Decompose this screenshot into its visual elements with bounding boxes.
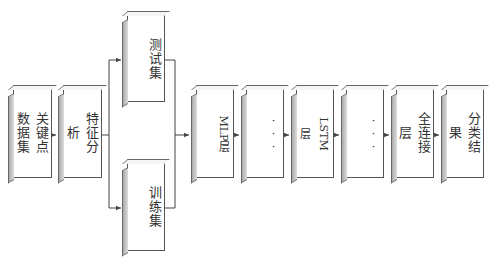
node-label: 特征分析	[64, 112, 101, 156]
node-label: 分类结果	[447, 112, 483, 156]
ellipsis-icon: ···	[247, 114, 283, 153]
node-mlp-layer: MLP层	[196, 89, 234, 178]
node-test-set: 测试集	[127, 15, 165, 102]
node-label: LSTM层	[297, 112, 333, 156]
node-train-set: 训练集	[127, 163, 165, 251]
node-ellipsis-2: ···	[346, 89, 384, 178]
node-feature-analysis: 特征分析	[63, 89, 102, 178]
node-label: 关键点数据集	[14, 112, 51, 156]
ellipsis-icon: ···	[347, 114, 383, 153]
node-fully-connected-layer: 全连接层	[396, 89, 434, 178]
node-lstm-layer: LSTM层	[296, 89, 334, 178]
node-ellipsis-1: ···	[246, 89, 284, 178]
node-label: 全连接层	[397, 112, 433, 156]
node-label: 训练集	[128, 186, 164, 228]
node-label: 测试集	[128, 38, 164, 80]
node-keypoint-dataset: 关键点数据集	[13, 89, 52, 178]
node-label: MLP层	[197, 115, 233, 152]
node-classification-result: 分类结果	[446, 89, 484, 178]
